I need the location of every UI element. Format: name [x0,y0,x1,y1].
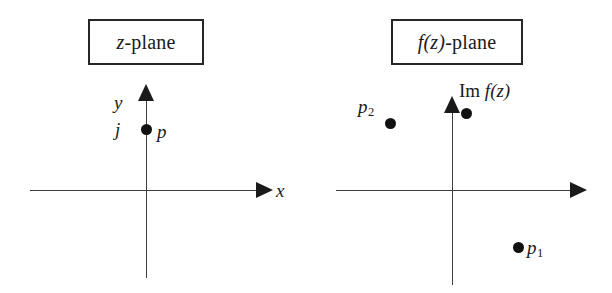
fz-plane-p1-subscript: 1 [537,246,543,260]
figure-root: z-plane y x j p f(z)-plane Im f(z) [0,0,612,293]
fz-plane-fz-symbol: f(z) [485,80,510,101]
z-plane-y-axis-label: y [114,93,122,112]
fz-plane-p1-base: p [527,237,537,258]
z-plane-vertical-axis [146,93,147,278]
z-plane-title-box: z-plane [88,19,204,65]
fz-plane-title-roman: -plane [445,32,496,52]
z-plane-title-italic: z [116,32,124,52]
z-plane-horizontal-axis [30,190,258,191]
panel-fz-plane: f(z)-plane Im f(z) p2 p1 [306,0,612,293]
fz-plane-imaginary-axis-label: Im f(z) [459,81,510,100]
fz-plane-p2-base: p [358,96,368,117]
fz-plane-p1-label: p1 [527,238,543,260]
fz-plane-p2-label: p2 [358,97,374,119]
z-plane-pole-label: p [157,122,167,141]
fz-plane-im-prefix: Im [459,80,485,101]
fz-plane-horizontal-axis [336,190,572,191]
panel-z-plane: z-plane y x j p [0,0,306,293]
z-plane-x-axis-label: x [276,181,284,200]
fz-plane-title-italic: f(z) [418,32,445,52]
fz-plane-p2-subscript: 2 [368,105,374,119]
fz-plane-p1-point [513,242,524,253]
fz-plane-title-box: f(z)-plane [391,19,523,65]
fz-plane-p2-point [385,118,396,129]
fz-plane-image-point-upper [461,108,472,119]
z-plane-pole-point [141,124,152,135]
z-plane-title-roman: -plane [124,32,175,52]
z-plane-vertical-axis-arrow-icon [138,84,154,101]
z-plane-imaginary-unit-label: j [115,120,120,139]
z-plane-horizontal-axis-arrow-icon [256,182,273,198]
fz-plane-vertical-axis-arrow-icon [444,96,460,113]
fz-plane-horizontal-axis-arrow-icon [570,182,587,198]
fz-plane-vertical-axis [452,105,453,285]
